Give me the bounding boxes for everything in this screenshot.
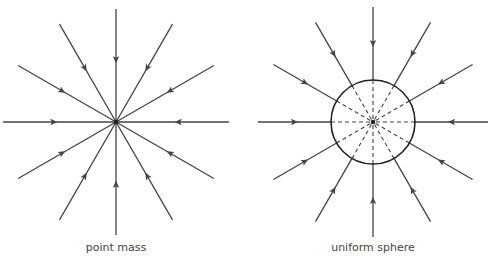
gravitational-field-diagrams bbox=[0, 0, 488, 263]
field-line bbox=[116, 66, 214, 123]
field-line bbox=[116, 24, 173, 122]
field-line bbox=[60, 24, 117, 122]
field-line bbox=[60, 122, 117, 220]
point-mass-label: point mass bbox=[36, 241, 196, 254]
field-line bbox=[116, 122, 214, 179]
field-line bbox=[116, 122, 173, 220]
uniform-sphere-label: uniform sphere bbox=[293, 241, 453, 254]
field-line bbox=[18, 122, 116, 179]
center-point bbox=[371, 120, 375, 124]
center-point bbox=[114, 120, 118, 124]
field-line bbox=[18, 66, 116, 123]
